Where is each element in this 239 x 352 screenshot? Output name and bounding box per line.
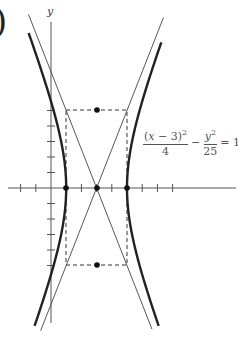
- equation-label: (x − 3)2 4 − y2 25 = 1: [143, 126, 239, 159]
- eq-minus: −: [191, 136, 200, 149]
- hyperbola-figure: ) y (x − 3)2 4 − y2 25 = 1: [0, 0, 239, 352]
- vertex-left-point: [63, 185, 69, 191]
- center-point: [94, 185, 100, 191]
- eq-equals: = 1: [220, 136, 239, 149]
- asymptote-negative: [29, 14, 152, 329]
- plot-area: [0, 0, 239, 352]
- eq-rest: − 3): [155, 130, 183, 143]
- hyperbola-left-branch: [29, 33, 67, 326]
- eq-den2: 25: [203, 145, 217, 159]
- equation-term2: y2 25: [203, 126, 217, 159]
- co-vertex-bottom-point: [94, 262, 100, 268]
- eq-den1: 4: [162, 145, 169, 159]
- equation-term1: (x − 3)2 4: [143, 126, 188, 159]
- eq-exp2: 2: [211, 128, 216, 137]
- eq-exp1: 2: [182, 128, 187, 137]
- hyperbola-right-branch: [127, 42, 161, 326]
- co-vertex-top-point: [94, 107, 100, 113]
- vertex-right-point: [124, 185, 130, 191]
